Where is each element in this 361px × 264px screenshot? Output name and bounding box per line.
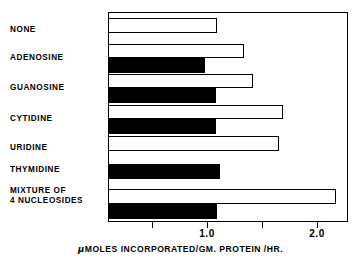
x-axis-caption-text: MOLES INCORPORATED/GM. PROTEIN /HR. — [85, 244, 283, 254]
x-tick-1-5 — [262, 222, 263, 228]
x-tick-label-1-0: 1.0 — [199, 228, 215, 239]
x-axis-caption: μMOLES INCORPORATED/GM. PROTEIN /HR. — [0, 244, 361, 254]
category-label-guanosine: GUANOSINE — [2, 83, 103, 93]
category-label-adenosine: ADENOSINE — [2, 53, 103, 63]
bar-none-open — [108, 18, 217, 33]
x-axis-ticks: 1.0 2.0 — [108, 222, 348, 230]
category-label-uridine: URIDINE — [2, 143, 103, 153]
bar-mixture-filled — [108, 204, 217, 219]
bars-layer — [108, 12, 348, 222]
category-label-thymidine: THYMIDINE — [2, 165, 103, 175]
bar-cytidine-open — [108, 105, 283, 119]
mu-symbol: μ — [78, 244, 85, 254]
bar-chart-figure: NONE ADENOSINE GUANOSINE CYTIDINE URIDIN… — [0, 0, 361, 264]
bar-adenosine-open — [108, 44, 244, 58]
x-tick-0-5 — [152, 222, 153, 228]
bar-thymidine-filled — [108, 164, 220, 179]
bar-cytidine-filled — [108, 119, 216, 134]
bar-adenosine-filled — [108, 58, 205, 73]
x-tick-label-2-0: 2.0 — [309, 228, 325, 239]
bar-guanosine-filled — [108, 88, 216, 103]
category-label-column: NONE ADENOSINE GUANOSINE CYTIDINE URIDIN… — [0, 0, 108, 222]
bar-guanosine-open — [108, 74, 253, 88]
category-label-none: NONE — [2, 25, 103, 35]
category-label-cytidine: CYTIDINE — [2, 114, 103, 124]
category-label-mixture: MIXTURE OF 4 NUCLEOSIDES — [2, 186, 103, 206]
bar-uridine-open — [108, 136, 279, 151]
bar-mixture-open — [108, 189, 336, 204]
